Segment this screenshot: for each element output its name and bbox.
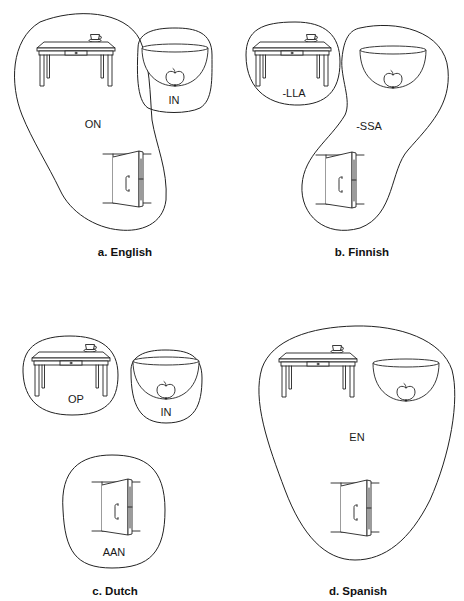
bowl-with-apple-icon (373, 359, 439, 401)
panel-dutch: OP IN AAN c. Dutch (23, 336, 202, 597)
panel-spanish: EN d. Spanish (259, 326, 455, 597)
table-with-cup-icon (32, 345, 110, 397)
group-label: -LLA (282, 87, 306, 99)
group-label: ON (85, 118, 102, 130)
group-label: IN (169, 94, 180, 106)
panel-caption: b. Finnish (335, 246, 389, 258)
bowl-with-apple-icon (133, 357, 199, 399)
panel-caption: d. Spanish (329, 585, 387, 597)
group-label: IN (161, 406, 172, 418)
table-with-cup-icon (37, 35, 115, 87)
door-with-handle-icon (331, 480, 379, 536)
group-label: EN (349, 431, 364, 443)
group-label: -SSA (356, 120, 382, 132)
table-with-cup-icon (253, 35, 331, 87)
bowl-with-apple-icon (142, 44, 208, 86)
door-with-handle-icon (92, 479, 140, 535)
bowl-with-apple-icon (360, 46, 426, 88)
door-with-handle-icon (103, 151, 151, 207)
prepositions-diagram: ON IN a. English -LLA -SSA b. Finnish OP… (0, 0, 464, 601)
panel-english: ON IN a. English (15, 14, 213, 258)
table-with-cup-icon (279, 346, 357, 398)
panel-caption: a. English (98, 246, 152, 258)
group-label: AAN (103, 546, 126, 558)
group-label: OP (68, 393, 84, 405)
door-with-handle-icon (316, 152, 364, 208)
panel-finnish: -LLA -SSA b. Finnish (246, 22, 448, 258)
panel-caption: c. Dutch (92, 585, 137, 597)
